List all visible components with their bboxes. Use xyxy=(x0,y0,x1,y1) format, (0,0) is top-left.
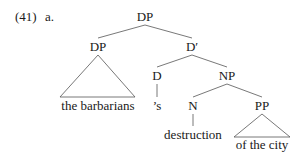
node-n: N xyxy=(188,98,198,113)
example-sub-label: a. xyxy=(45,9,54,24)
edge-bar-to-d xyxy=(157,55,192,67)
node-root-dp: DP xyxy=(137,9,154,24)
edge-bar-to-np xyxy=(192,55,227,67)
node-spec-dp: DP xyxy=(90,39,107,54)
edge-np-to-pp xyxy=(227,84,262,97)
node-d: D xyxy=(152,68,161,83)
leaf-possessive-s: ’s xyxy=(153,98,162,113)
edge-root-to-spec xyxy=(98,25,145,38)
triangle-spec xyxy=(60,55,135,97)
leaf-of-the-city: of the city xyxy=(236,137,289,152)
node-pp: PP xyxy=(255,98,269,113)
leaf-the-barbarians: the barbarians xyxy=(61,98,134,113)
syntax-tree-diagram: (41) a. DP DP the barbarians D′ D ’s NP … xyxy=(0,0,305,161)
node-d-bar: D′ xyxy=(186,39,198,54)
node-np: NP xyxy=(219,68,236,83)
example-number: (41) xyxy=(15,9,37,24)
edge-root-to-bar xyxy=(145,25,192,38)
edge-np-to-n xyxy=(193,84,227,97)
triangle-pp xyxy=(234,114,290,137)
leaf-destruction: destruction xyxy=(164,127,222,142)
